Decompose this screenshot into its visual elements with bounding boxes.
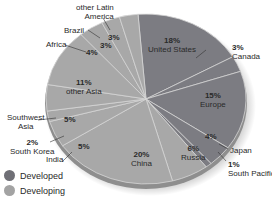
label-japan-pct: 4% [205,132,217,141]
label-canada: 3% Canada [232,43,260,61]
label-other-asia: 11% other Asia [66,78,102,96]
legend-item-developed: Developed [4,168,65,183]
label-brazil: Brazil [64,26,84,35]
label-india: India [46,155,63,164]
legend-item-developing: Developing [4,183,65,198]
label-southwest-asia-pct: 5% [64,115,76,124]
label-south-pacific: 1% South Pacific [228,160,272,178]
label-europe: 15% Europe [200,91,226,109]
label-southwest-asia: Southwest Asia [7,113,44,131]
label-south-korea: 2% South Korea [10,138,54,156]
label-russia: 6% Russia [181,144,205,162]
label-brazil-pct: 3% [100,41,112,50]
legend-swatch-developed [4,170,15,181]
label-other-latin-america-pct: 3% [108,33,120,42]
label-united-states: 18% United States [148,36,196,54]
label-india-pct: 5% [78,142,90,151]
legend-swatch-developing [4,185,15,196]
label-other-latin-america: other Latin America [76,3,114,21]
legend: Developed Developing [4,168,65,198]
label-china: 20% China [131,150,152,168]
label-africa: Africa [46,40,66,49]
label-africa-pct: 4% [86,48,98,57]
label-japan: Japan [230,146,252,155]
